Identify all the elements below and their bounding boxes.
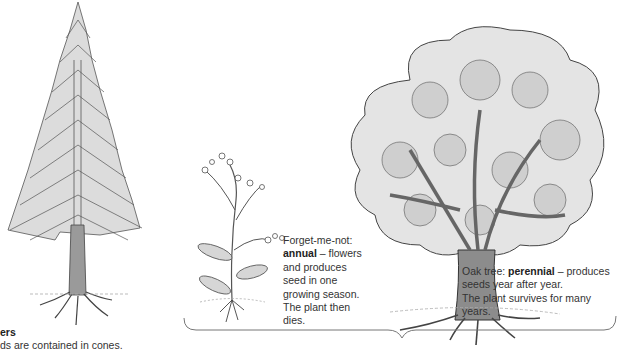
forget-me-not-plant <box>196 153 284 322</box>
oak-label: Oak tree: perennial – produces seeds yea… <box>462 265 619 319</box>
oak-label-prefix: Oak tree: <box>462 265 508 277</box>
oak-label-line2: seeds year after year. <box>462 278 563 290</box>
conifer-label: ers ds are contained in cones. <box>0 326 123 352</box>
oak-label-line3: The plant survives for many years. <box>462 292 591 317</box>
grouping-brace <box>184 316 616 338</box>
conifer-label-title: ers <box>0 326 16 338</box>
oak-label-line1-rest: – produces <box>555 265 610 277</box>
oak-label-term: perennial <box>508 265 555 277</box>
forget-me-not-label-prefix: Forget-me-not: <box>283 234 352 246</box>
conifer-label-text: ds are contained in cones. <box>0 339 123 351</box>
conifer-tree <box>8 2 142 325</box>
forget-me-not-label-term: annual <box>283 247 317 259</box>
forget-me-not-label: Forget-me-not: annual – flowers and prod… <box>283 234 363 328</box>
